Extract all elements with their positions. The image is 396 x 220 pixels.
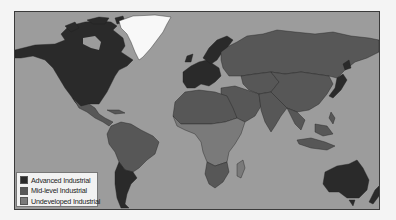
legend-label-mid: Mid-level Industrial <box>31 186 87 195</box>
region-north-america <box>15 21 133 108</box>
region-greenland <box>119 15 171 60</box>
region-caribbean <box>107 110 125 114</box>
legend-swatch-advanced <box>20 176 28 184</box>
region-south-america <box>107 122 159 172</box>
region-russia <box>221 30 379 78</box>
legend-label-advanced: Advanced Industrial <box>31 176 90 185</box>
legend-item-advanced: Advanced Industrial <box>20 175 94 185</box>
region-madagascar <box>237 160 245 178</box>
legend-swatch-undeveloped <box>20 197 28 205</box>
region-southeast-asia <box>287 108 335 150</box>
region-australia <box>323 160 369 206</box>
legend-swatch-mid <box>20 187 28 195</box>
legend-label-undeveloped: Undeveloped Industrial <box>31 197 100 206</box>
legend-item-undeveloped: Undeveloped Industrial <box>20 196 94 206</box>
region-southern-africa <box>205 162 229 188</box>
map-legend: Advanced Industrial Mid-level Industrial… <box>16 172 98 207</box>
legend-item-mid: Mid-level Industrial <box>20 186 94 196</box>
region-new-zealand <box>369 186 379 204</box>
